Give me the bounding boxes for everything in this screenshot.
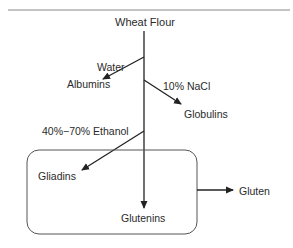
gluten-group-box <box>27 150 197 234</box>
node-gliadins: Gliadins <box>38 171 76 182</box>
edge-label-water: Water <box>97 62 125 73</box>
node-glutenins: Glutenins <box>121 213 165 224</box>
diagram-canvas <box>0 0 293 248</box>
node-globulins: Globulins <box>184 109 228 120</box>
node-wheat-flour: Wheat Flour <box>115 17 175 28</box>
edge-label-nacl: 10% NaCl <box>163 81 210 92</box>
node-gluten: Gluten <box>239 186 270 197</box>
edge-label-ethanol: 40%−70% Ethanol <box>42 126 129 137</box>
node-albumins: Albumins <box>67 79 110 90</box>
